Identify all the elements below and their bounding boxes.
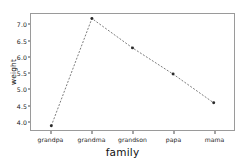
data-point [131,46,134,49]
y-axis-tick-mark [28,56,31,57]
data-point [90,17,93,20]
y-axis-tick-mark [28,89,31,90]
y-axis-tick-mark [28,40,31,41]
data-point [172,73,175,76]
y-axis-tick-label: 7.0 [17,21,27,28]
chart-figure: 4.04.55.05.56.06.57.0 weight grandpagran… [0,0,245,165]
plot-svg [31,14,234,130]
x-axis-tick-label: mama [205,136,225,143]
x-axis-tick-mark [50,131,51,134]
y-axis-tick-label: 4.0 [17,118,27,125]
y-axis-title-wrapper: weight [2,13,16,131]
y-axis-tick-mark [28,24,31,25]
plot-area [30,13,235,131]
x-axis-tick-mark [91,131,92,134]
y-axis-tick-label: 5.5 [17,70,27,77]
y-axis-title: weight [9,49,18,95]
x-axis-tick-label: grandma [78,136,106,143]
y-axis-tick-label: 4.5 [17,102,27,109]
y-axis-tick-mark [28,105,31,106]
x-axis-tick-label: papa [166,136,181,143]
x-axis-tick-mark [214,131,215,134]
data-markers [50,17,215,127]
data-point [212,101,215,104]
x-axis-tick-label: grandson [118,136,147,143]
y-axis-tick-mark [28,73,31,74]
y-axis-tick-label: 6.5 [17,37,27,44]
data-line [51,18,213,125]
y-axis-tick-mark [28,121,31,122]
y-axis-tick-label: 5.0 [17,86,27,93]
y-axis-tick-label: 6.0 [17,53,27,60]
x-axis-tick-mark [132,131,133,134]
x-axis-title: family [0,146,245,158]
x-axis-tick-label: grandpa [38,136,64,143]
data-point [50,124,53,127]
x-axis-tick-mark [173,131,174,134]
